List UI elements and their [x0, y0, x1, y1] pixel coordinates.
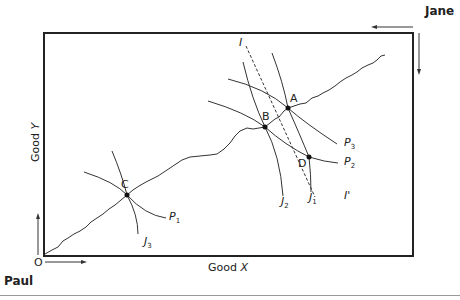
point-c-marker [125, 193, 130, 198]
paul-x-arrow [45, 260, 87, 264]
curve-label-j3: J3 [144, 236, 152, 250]
point-d-marker [307, 155, 312, 160]
point-b-marker [263, 125, 268, 130]
owner-jane-label: Jane [425, 5, 454, 17]
curve-label-p2: P2 [344, 156, 355, 170]
budget-line-end-label: I' [344, 190, 350, 201]
indifference-curve-j1 [272, 53, 311, 192]
paul-y-arrow [36, 213, 40, 255]
jane-y-arrow [417, 33, 421, 75]
indifference-curve-p3 [228, 79, 337, 144]
curve-label-j1: J1 [309, 192, 317, 206]
x-axis-label: Good X [208, 262, 248, 273]
curve-label-p3: P3 [344, 137, 355, 151]
curve-label-p1: P1 [169, 211, 180, 225]
bottom-divider [0, 295, 460, 296]
y-axis-label: Good Y [30, 123, 41, 162]
jane-x-arrow [371, 25, 413, 29]
point-d-label: D [298, 158, 306, 169]
origin-label: O [34, 257, 43, 268]
point-c-label: C [121, 179, 129, 190]
point-a-label: A [290, 93, 298, 104]
point-a-marker [286, 106, 291, 111]
edgeworth-box-diagram [0, 0, 460, 300]
owner-paul-label: Paul [4, 275, 33, 287]
indifference-curve-j2 [243, 62, 283, 196]
curve-label-j2: J2 [281, 196, 289, 210]
point-b-label: B [262, 111, 270, 122]
budget-line-start-label: I [239, 37, 242, 48]
contract-curve [45, 55, 385, 254]
